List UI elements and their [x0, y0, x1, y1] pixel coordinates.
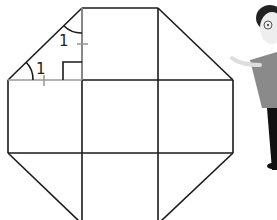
character-illustration	[232, 5, 277, 170]
octagon-outline	[8, 8, 233, 220]
guide-lines	[8, 8, 88, 86]
angle-arc-bottom	[26, 62, 33, 80]
grid-lines	[8, 8, 233, 220]
octagon-svg: 1 1	[0, 0, 277, 220]
angle-label-bottom: 1	[36, 60, 46, 78]
right-angle-marker	[63, 62, 82, 80]
angle-label-top: 1	[59, 32, 69, 50]
